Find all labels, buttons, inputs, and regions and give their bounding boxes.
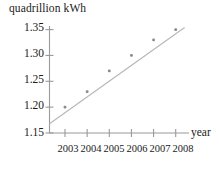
data-point bbox=[86, 90, 89, 93]
data-point bbox=[152, 39, 155, 42]
trend-line bbox=[50, 28, 185, 124]
axes bbox=[50, 26, 190, 133]
data-point bbox=[108, 70, 111, 73]
chart-container: quadrillion kWh year 1.35 1.30 1.25 1.20… bbox=[0, 0, 219, 170]
plot-area bbox=[0, 0, 219, 170]
data-point bbox=[64, 106, 67, 109]
data-point bbox=[174, 28, 177, 31]
data-point bbox=[130, 54, 133, 57]
data-point-markers bbox=[64, 28, 178, 108]
